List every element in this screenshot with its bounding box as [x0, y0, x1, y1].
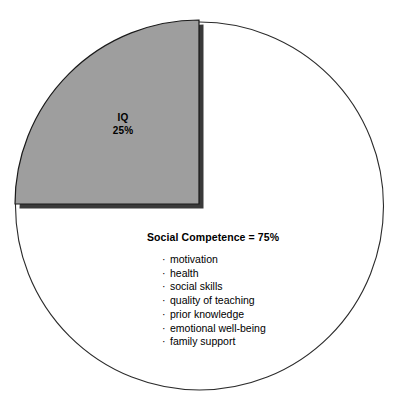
list-item-label: health: [170, 267, 199, 279]
bullet-glyph: ·: [162, 322, 166, 336]
list-item: · social skills: [147, 280, 377, 294]
list-item-label: social skills: [170, 280, 223, 292]
bullet-glyph: ·: [162, 280, 166, 294]
list-item: · quality of teaching: [147, 294, 377, 308]
list-item: · emotional well-being: [147, 322, 377, 336]
social-competence-heading: Social Competence = 75%: [147, 231, 377, 244]
list-item: · health: [147, 267, 377, 281]
list-item-label: prior knowledge: [170, 308, 244, 320]
list-item: · motivation: [147, 253, 377, 267]
list-item-label: quality of teaching: [170, 294, 255, 306]
bullet-glyph: ·: [162, 294, 166, 308]
bullet-glyph: ·: [162, 308, 166, 322]
social-competence-list: · motivation · health · social skills · …: [147, 253, 377, 349]
bullet-glyph: ·: [162, 253, 166, 267]
iq-slice[interactable]: [15, 20, 199, 204]
social-competence-block: Social Competence = 75% · motivation · h…: [147, 231, 377, 349]
pie-chart-figure: IQ 25% Social Competence = 75% · motivat…: [0, 0, 393, 405]
bullet-glyph: ·: [162, 335, 166, 349]
list-item-label: family support: [170, 335, 235, 347]
list-item: · family support: [147, 335, 377, 349]
bullet-glyph: ·: [162, 267, 166, 281]
list-item: · prior knowledge: [147, 308, 377, 322]
list-item-label: motivation: [170, 253, 218, 265]
list-item-label: emotional well-being: [170, 322, 266, 334]
